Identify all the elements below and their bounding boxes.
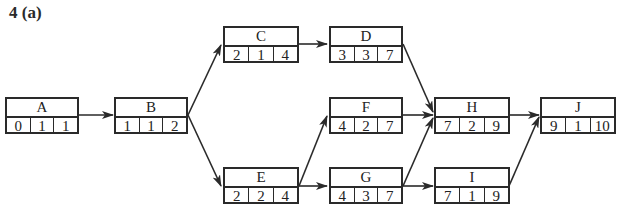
edge-I-J	[509, 117, 539, 186]
node-value: 3	[355, 188, 379, 204]
node-value: 2	[249, 188, 273, 204]
node-value: 4	[274, 47, 297, 63]
node-value: 7	[378, 47, 401, 63]
node-name: B	[116, 99, 186, 118]
node-value: 3	[355, 47, 379, 63]
node-value: 2	[225, 47, 249, 63]
node-name: D	[331, 28, 401, 47]
node-D: D 337	[329, 26, 403, 63]
node-value: 1	[116, 118, 140, 134]
node-value: 4	[331, 118, 355, 134]
node-value: 1	[566, 118, 590, 134]
node-value: 9	[485, 118, 508, 134]
node-value: 2	[355, 118, 379, 134]
node-value: 4	[331, 188, 355, 204]
node-value: 9	[485, 188, 508, 204]
edge-E-F	[299, 116, 327, 186]
node-name: J	[542, 99, 614, 118]
node-value: 2	[163, 118, 186, 134]
node-A: A 011	[5, 97, 79, 134]
node-value: 7	[378, 118, 401, 134]
node-name: H	[436, 99, 508, 118]
node-value: 7	[378, 188, 401, 204]
node-value: 1	[460, 188, 484, 204]
node-value: 7	[436, 188, 460, 204]
node-value: 1	[54, 118, 77, 134]
node-value: 3	[331, 47, 355, 63]
node-value: 1	[140, 118, 164, 134]
node-G: G 437	[329, 167, 403, 204]
edge-G-H	[403, 118, 433, 186]
node-value: 7	[436, 118, 460, 134]
node-E: E 224	[223, 167, 299, 204]
node-value: 2	[225, 188, 249, 204]
edge-B-E	[188, 115, 221, 186]
node-name: E	[225, 169, 297, 188]
edge-D-H	[403, 44, 433, 112]
node-J: J 9110	[540, 97, 616, 134]
node-name: I	[436, 169, 508, 188]
node-value: 1	[249, 47, 273, 63]
node-name: F	[331, 99, 401, 118]
node-B: B 112	[114, 97, 188, 134]
node-value: 9	[542, 118, 566, 134]
node-name: A	[7, 99, 77, 118]
node-name: C	[225, 28, 297, 47]
edges-layer	[0, 0, 623, 210]
edge-B-C	[188, 45, 221, 115]
node-C: C 214	[223, 26, 299, 63]
node-I: I 719	[434, 167, 510, 204]
node-value: 4	[274, 188, 297, 204]
node-value: 0	[7, 118, 31, 134]
node-value: 1	[31, 118, 55, 134]
node-value: 2	[460, 118, 484, 134]
node-H: H 729	[434, 97, 510, 134]
node-value: 10	[591, 118, 614, 134]
node-F: F 427	[329, 97, 403, 134]
node-name: G	[331, 169, 401, 188]
